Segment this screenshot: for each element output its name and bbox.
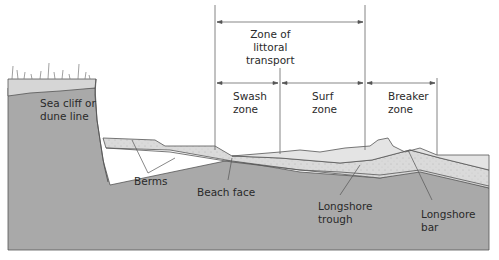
grass-icon (12, 63, 90, 79)
berms-label: Berms (134, 175, 168, 188)
breaker-zone-label: Breaker zone (388, 90, 429, 116)
beach-face-label: Beach face (197, 186, 255, 199)
longshore-trough-label: Longshore trough (318, 200, 373, 226)
sea-cliff-label: Sea cliff or dune line (40, 97, 96, 123)
longshore-bar-label: Longshore bar (421, 208, 476, 234)
surf-zone-label: Surf zone (312, 90, 337, 116)
zone-littoral-transport-label: Zone of littoral transport (246, 28, 295, 67)
swash-zone-label: Swash zone (233, 90, 267, 116)
